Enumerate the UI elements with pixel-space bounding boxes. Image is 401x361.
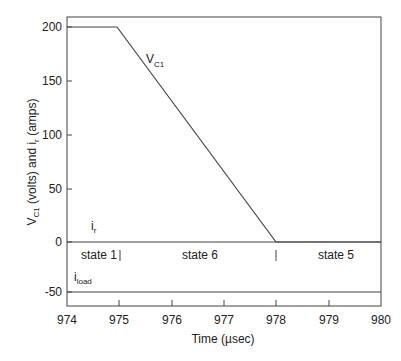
x-tick-label: 974	[57, 313, 77, 327]
series-vc1-line	[67, 27, 381, 242]
x-tick-label: 980	[371, 313, 391, 327]
x-tick-label: 977	[214, 313, 234, 327]
y-axis-label: VC1 (volts) and ir (amps)	[25, 99, 41, 226]
chart: 200 150 100 50 0 -50 974 975 976 977 978…	[0, 0, 401, 361]
state-1-label: state 1	[81, 248, 117, 262]
x-axis-label: Time (µsec)	[191, 332, 254, 346]
y-tick-label: 150	[42, 74, 62, 88]
iload-annotation: iload	[74, 270, 92, 286]
plot-frame	[67, 17, 381, 306]
y-tick-label: -50	[45, 285, 63, 299]
state-5-label: state 5	[318, 248, 354, 262]
x-tick-label: 975	[109, 313, 129, 327]
x-tick-label: 976	[162, 313, 182, 327]
state-6-label: state 6	[182, 248, 218, 262]
y-tick-label: 200	[42, 20, 62, 34]
y-tick-label: 50	[49, 182, 63, 196]
x-tick-label: 979	[319, 313, 339, 327]
y-tick-label: 100	[42, 128, 62, 142]
x-tick-label: 978	[266, 313, 286, 327]
ir-annotation: ir	[91, 219, 97, 235]
x-ticks	[119, 300, 329, 306]
y-tick-label: 0	[55, 235, 62, 249]
vc1-annotation: VC1	[146, 52, 165, 69]
y-ticks	[67, 27, 72, 292]
